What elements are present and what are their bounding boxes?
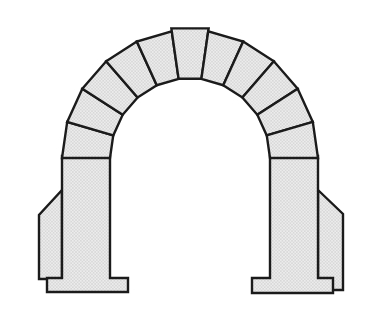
left-buttress	[39, 190, 62, 279]
arch-illustration	[0, 0, 365, 316]
stone-arch-figure	[0, 0, 365, 316]
right-buttress	[318, 190, 343, 290]
masonry-group	[39, 28, 343, 293]
